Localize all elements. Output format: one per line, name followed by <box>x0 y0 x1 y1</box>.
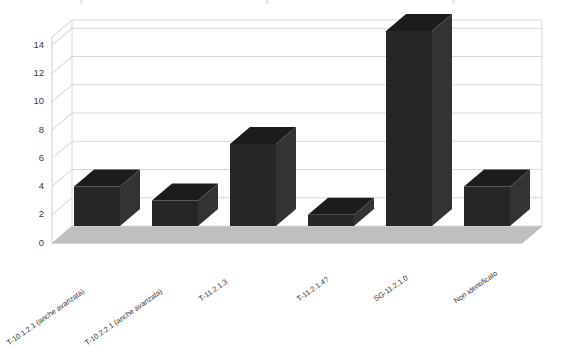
bar-2-side <box>276 127 296 226</box>
bar-column-2[interactable] <box>230 127 296 226</box>
category-label-4: SG-11.2.1.0 <box>372 273 409 303</box>
y-tick-6: 6 <box>39 152 44 163</box>
y-tick-4: 4 <box>39 180 44 191</box>
bar-4-side <box>432 14 452 226</box>
y-tick-14: 14 <box>33 39 44 50</box>
plot-left-wall <box>52 20 72 243</box>
bar-2-front <box>230 144 276 226</box>
y-axis-tick-labels: 0 2 4 6 8 10 12 14 <box>33 39 44 248</box>
y-tick-2: 2 <box>39 208 44 219</box>
category-label-3: T-11.2.1.4? <box>295 275 330 304</box>
plot-floor <box>52 226 542 243</box>
category-label-0: T-10.1.2.1 (anche avanzata) <box>5 287 86 347</box>
bar-column-4[interactable] <box>386 14 452 226</box>
chart-canvas: 0 2 4 6 8 10 12 14 <box>0 0 567 352</box>
bar-chart-figure: 0 2 4 6 8 10 12 14 <box>0 0 567 352</box>
category-label-1: T-10.2.2.1 (anche avanzata) <box>83 287 164 347</box>
x-axis-category-labels: T-10.1.2.1 (anche avanzata) T-10.2.2.1 (… <box>5 269 499 348</box>
bar-1-front <box>152 201 198 226</box>
y-tick-8: 8 <box>39 124 44 135</box>
y-tick-0: 0 <box>39 237 44 248</box>
y-tick-10: 10 <box>33 95 44 106</box>
bar-3-front <box>308 215 354 226</box>
category-label-5: Non identificato <box>452 269 499 306</box>
y-tick-12: 12 <box>33 67 44 78</box>
bar-5-front <box>464 187 510 227</box>
category-label-2: T-11.2.1.3 <box>197 277 229 303</box>
bar-4-front <box>386 31 432 226</box>
bar-0-front <box>74 187 120 227</box>
